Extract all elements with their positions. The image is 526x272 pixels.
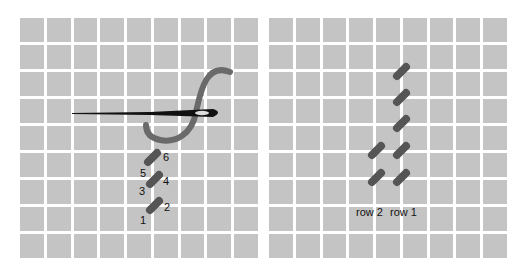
stitch-number: 2 bbox=[164, 202, 170, 213]
stitch-overlay bbox=[0, 0, 526, 272]
stitch-5-6 bbox=[148, 153, 157, 162]
stitch-number: 5 bbox=[140, 168, 146, 179]
stitch-number: 3 bbox=[139, 186, 145, 197]
stitch-number: 4 bbox=[163, 176, 169, 187]
needle-eye-icon bbox=[195, 111, 209, 115]
row-label: row 2 bbox=[356, 207, 383, 218]
left-stitches bbox=[148, 153, 159, 210]
stitch-number: 6 bbox=[163, 152, 169, 163]
stitch-3-4 bbox=[150, 175, 159, 184]
stitch-1-2 bbox=[150, 201, 159, 210]
thread-icon bbox=[146, 70, 230, 140]
stitch-number: 1 bbox=[140, 215, 146, 226]
right-stitches bbox=[372, 67, 406, 182]
row-label: row 1 bbox=[390, 207, 417, 218]
